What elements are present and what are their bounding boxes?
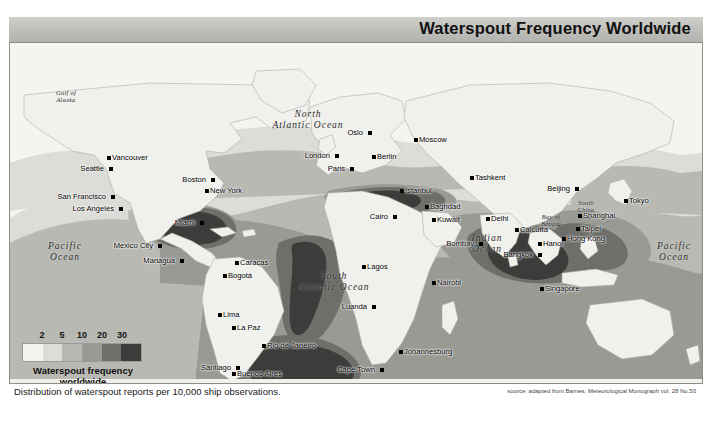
- page-title: Waterspout Frequency Worldwide: [419, 19, 691, 38]
- city-label: Bangkok: [503, 251, 533, 259]
- ocean-label-pacific-east: PacificOcean: [643, 241, 702, 263]
- legend-tick-30: 30: [117, 330, 127, 340]
- legend-swatch-1: [43, 344, 63, 361]
- city-dot-icon: [578, 214, 582, 218]
- city-label: Singapore: [545, 285, 580, 293]
- city-dot-icon: [223, 274, 227, 278]
- city-dot-icon: [119, 207, 123, 211]
- city-label: Delhi: [491, 215, 508, 223]
- city-dot-icon: [372, 155, 376, 159]
- city-dot-icon: [235, 261, 239, 265]
- city-label: Nairobi: [437, 279, 461, 287]
- city-dot-icon: [575, 187, 579, 191]
- city-dot-icon: [368, 131, 372, 135]
- city-label: Buenos Aires: [237, 370, 282, 378]
- city-label: Tashkent: [475, 174, 505, 182]
- ocean-label-pacific-west: PacificOcean: [34, 241, 96, 263]
- city-label: Berlin: [377, 153, 396, 161]
- city-dot-icon: [562, 237, 566, 241]
- city-label: Paris: [328, 165, 345, 173]
- city-label: Vancouver: [112, 154, 148, 162]
- city-dot-icon: [414, 138, 418, 142]
- city-dot-icon: [180, 259, 184, 263]
- legend-tick-labels: 25102030: [22, 330, 142, 343]
- city-dot-icon: [479, 242, 483, 246]
- city-dot-icon: [218, 313, 222, 317]
- legend-swatch-4: [102, 344, 122, 361]
- city-label: Beijing: [547, 185, 570, 193]
- city-dot-icon: [624, 199, 628, 203]
- city-label: Oslo: [347, 129, 363, 137]
- city-dot-icon: [205, 189, 209, 193]
- city-label: Caracas: [240, 259, 268, 267]
- city-dot-icon: [350, 167, 354, 171]
- city-dot-icon: [432, 281, 436, 285]
- city-label: San Francisco: [57, 193, 106, 201]
- legend-tick-20: 20: [97, 330, 107, 340]
- city-dot-icon: [470, 176, 474, 180]
- city-label: Hanoi: [543, 240, 563, 248]
- city-dot-icon: [399, 350, 403, 354]
- legend-tick-10: 10: [77, 330, 87, 340]
- city-dot-icon: [486, 217, 490, 221]
- map-caption: Distribution of waterspout reports per 1…: [14, 386, 281, 397]
- ocean-label-south-atlantic: SouthAtlantic Ocean: [282, 271, 386, 293]
- city-dot-icon: [515, 228, 519, 232]
- city-label: Johannesburg: [404, 348, 452, 356]
- city-dot-icon: [111, 195, 115, 199]
- screenshot-root: Waterspout Frequency Worldwide: [0, 0, 712, 425]
- city-dot-icon: [200, 221, 204, 225]
- city-dot-icon: [400, 189, 404, 193]
- city-label: Hong Kong: [567, 235, 605, 243]
- city-dot-icon: [262, 344, 266, 348]
- city-dot-icon: [380, 368, 384, 372]
- city-dot-icon: [232, 372, 236, 376]
- city-dot-icon: [109, 167, 113, 171]
- source-attribution: source: adapted from Barnes, Meteorologi…: [507, 388, 696, 394]
- legend-swatch-5: [121, 344, 141, 361]
- city-label: Rio de Janeiro: [267, 342, 316, 350]
- legend-color-bar: [22, 343, 142, 362]
- city-dot-icon: [576, 227, 580, 231]
- city-dot-icon: [362, 265, 366, 269]
- city-label: Los Angeles: [73, 205, 114, 213]
- city-dot-icon: [335, 154, 339, 158]
- city-label: Shanghai: [583, 212, 615, 220]
- city-label: Bombay: [446, 240, 474, 248]
- city-label: Cape Town: [337, 366, 375, 374]
- city-label: Calcutta: [520, 226, 548, 234]
- city-label: Istanbul: [405, 187, 432, 195]
- legend-swatch-2: [62, 344, 82, 361]
- map-legend: 25102030 Waterspout frequency worldwide: [22, 330, 142, 387]
- city-dot-icon: [540, 287, 544, 291]
- city-dot-icon: [425, 205, 429, 209]
- city-dot-icon: [372, 305, 376, 309]
- city-dot-icon: [538, 242, 542, 246]
- city-label: New York: [210, 187, 242, 195]
- city-dot-icon: [432, 218, 436, 222]
- city-label: Santiago: [201, 364, 231, 372]
- city-label: Miami: [175, 219, 195, 227]
- ocean-label-gulf-of-alaska: Gulf ofAlaska: [42, 89, 90, 103]
- city-label: La Paz: [237, 324, 261, 332]
- city-label: Mexico City: [114, 242, 153, 250]
- city-label: Lima: [223, 311, 239, 319]
- city-dot-icon: [538, 253, 542, 257]
- city-label: Tokyo: [629, 197, 649, 205]
- city-label: Managua: [143, 257, 175, 265]
- city-label: Kuwait: [437, 216, 460, 224]
- city-dot-icon: [107, 156, 111, 160]
- city-label: Seattle: [80, 165, 104, 173]
- city-label: Cairo: [370, 213, 388, 221]
- legend-swatch-0: [23, 344, 43, 361]
- city-label: Moscow: [419, 136, 447, 144]
- city-label: Boston: [182, 176, 206, 184]
- legend-tick-5: 5: [59, 330, 64, 340]
- city-dot-icon: [393, 215, 397, 219]
- city-label: London: [305, 152, 330, 160]
- title-banner: Waterspout Frequency Worldwide: [9, 17, 703, 43]
- city-dot-icon: [158, 244, 162, 248]
- city-label: Baghdad: [430, 203, 460, 211]
- ocean-label-north-atlantic: NorthAtlantic Ocean: [257, 109, 359, 131]
- city-dot-icon: [232, 326, 236, 330]
